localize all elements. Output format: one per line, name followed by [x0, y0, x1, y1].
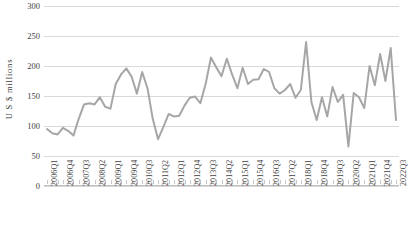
x-axis-tick	[333, 180, 334, 184]
x-axis-tick	[269, 180, 270, 184]
x-axis-tick	[317, 180, 318, 184]
y-axis-tick-label: 200	[18, 62, 40, 71]
x-axis-tick	[111, 180, 112, 184]
x-axis-tick	[348, 180, 349, 184]
x-axis-tick	[190, 180, 191, 184]
x-axis-tick	[47, 180, 48, 184]
y-axis-tick-label: 150	[18, 92, 40, 101]
x-axis-tick-label: 2022Q3	[399, 160, 408, 186]
x-axis-tick-label: 2008Q2	[98, 160, 107, 186]
x-axis-tick	[253, 180, 254, 184]
x-axis-tick	[79, 180, 80, 184]
x-axis-tick-labels: 2006Q12006Q42007Q32008Q22009Q12009Q42010…	[44, 186, 399, 233]
x-axis-tick-label: 2016Q3	[272, 160, 281, 186]
x-axis-tick-label: 2015Q4	[256, 160, 265, 186]
y-axis-tick-label: 0	[18, 182, 40, 191]
x-axis-tick-label: 2006Q4	[66, 160, 75, 186]
x-axis-tick-label: 2012Q1	[177, 160, 186, 186]
x-axis-tick-label: 2014Q2	[225, 160, 234, 186]
y-axis-title: U S $ millions	[4, 41, 14, 137]
y-axis-tick-label: 100	[18, 122, 40, 131]
x-axis-tick	[237, 180, 238, 184]
x-axis-tick	[206, 180, 207, 184]
x-axis-tick	[396, 180, 397, 184]
x-axis-tick-label: 2009Q1	[114, 160, 123, 186]
x-axis-tick-label: 2015Q1	[241, 160, 250, 186]
x-axis-tick	[301, 180, 302, 184]
x-axis-tick	[158, 180, 159, 184]
x-axis-tick-label: 2006Q1	[50, 160, 59, 186]
x-axis-tick-label: 2021Q1	[368, 160, 377, 186]
x-axis-tick	[174, 180, 175, 184]
x-axis-tick-label: 2020Q2	[352, 160, 361, 186]
x-axis-tick	[380, 180, 381, 184]
y-axis-tick-label: 300	[18, 2, 40, 11]
x-axis-tick-label: 2010Q3	[145, 160, 154, 186]
x-axis-tick-label: 2013Q3	[209, 160, 218, 186]
x-axis-tick	[222, 180, 223, 184]
x-axis-tick-label: 2021Q4	[383, 160, 392, 186]
x-axis-tick	[95, 180, 96, 184]
x-axis-tick	[285, 180, 286, 184]
x-axis-tick-label: 2018Q1	[304, 160, 313, 186]
x-axis-tick	[63, 180, 64, 184]
y-axis-tick-label: 50	[18, 152, 40, 161]
x-axis-tick-label: 2012Q4	[193, 160, 202, 186]
x-axis-tick	[364, 180, 365, 184]
x-axis-tick-label: 2009Q4	[130, 160, 139, 186]
x-axis-tick	[142, 180, 143, 184]
y-axis-tick-labels: 050100150200250300	[18, 0, 40, 233]
y-axis-tick-label: 250	[18, 32, 40, 41]
x-axis-tick-label: 2019Q3	[336, 160, 345, 186]
x-axis-tick-label: 2017Q2	[288, 160, 297, 186]
x-axis-tick-label: 2018Q4	[320, 160, 329, 186]
x-axis-tick-label: 2007Q3	[82, 160, 91, 186]
x-axis-tick	[126, 180, 127, 184]
x-axis-tick-label: 2011Q2	[161, 160, 170, 186]
